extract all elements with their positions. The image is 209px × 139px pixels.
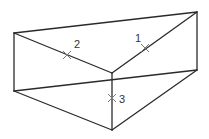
top-left-diagonal <box>14 33 112 73</box>
prism-markers: 123 <box>63 32 149 105</box>
point-marker-1: 1 <box>135 32 149 52</box>
bottom-back-edge <box>14 70 197 91</box>
prism-edges <box>14 12 197 130</box>
point-label-3: 3 <box>119 93 125 105</box>
bottom-left-edge <box>14 91 112 130</box>
point-marker-3: 3 <box>108 93 125 105</box>
top-right-diagonal <box>112 12 197 73</box>
point-label-1: 1 <box>135 32 141 44</box>
point-label-2: 2 <box>74 38 80 50</box>
prism-diagram: 123 <box>0 0 209 139</box>
top-back-edge <box>14 12 197 33</box>
